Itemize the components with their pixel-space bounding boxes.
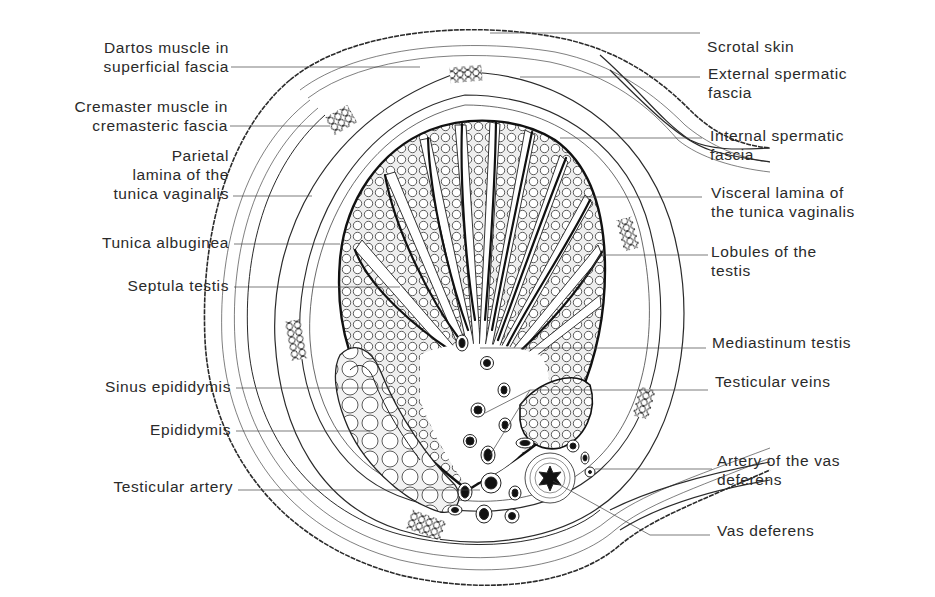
label-vas-deferens: Vas deferens (717, 521, 814, 540)
label-cremaster-muscle: Cremaster muscle in cremasteric fascia (74, 97, 228, 135)
label-internal-spermatic-fascia: Internal spermatic fascia (710, 126, 844, 164)
label-epididymis: Epididymis (150, 420, 231, 439)
label-sinus-epididymis: Sinus epididymis (105, 377, 231, 396)
label-scrotal-skin: Scrotal skin (707, 37, 794, 56)
label-mediastinum-testis: Mediastinum testis (712, 333, 851, 352)
label-tunica-albuginea: Tunica albuginea (102, 233, 229, 252)
vas-deferens-vessels (525, 440, 595, 503)
label-visceral-lamina: Visceral lamina of the tunica vaginalis (711, 183, 855, 221)
label-parietal-lamina: Parietal lamina of the tunica vaginalis (113, 146, 229, 203)
label-lobules-of-testis: Lobules of the testis (711, 242, 817, 280)
label-external-spermatic-fascia: External spermatic fascia (708, 64, 847, 102)
label-testicular-veins: Testicular veins (715, 372, 831, 391)
label-testicular-artery: Testicular artery (113, 477, 233, 496)
label-dartos-muscle: Dartos muscle in superficial fascia (104, 38, 229, 76)
label-artery-of-vas-deferens: Artery of the vas deferens (717, 451, 840, 489)
label-septula-testis: Septula testis (128, 276, 229, 295)
